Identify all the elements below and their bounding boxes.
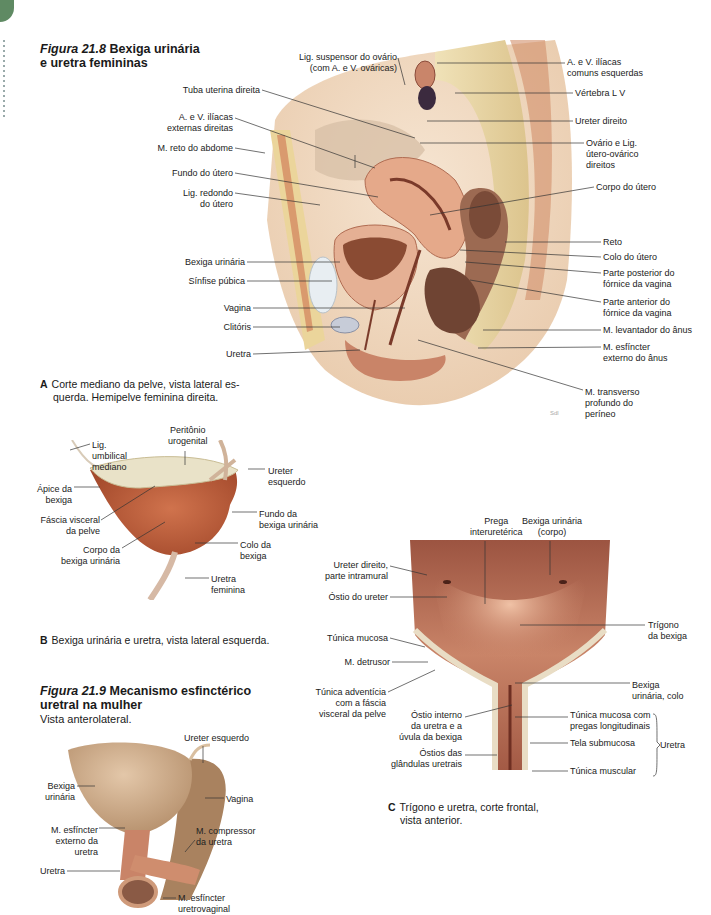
- label-lig-umbilical: Lig. umbilical mediano: [92, 440, 127, 473]
- label-text: M. esfíncter: [20, 825, 98, 836]
- figure-title-line1: Bexiga urinária: [109, 42, 199, 56]
- label-text: urogenital: [168, 436, 208, 447]
- label-text: fórnice da vagina: [603, 279, 675, 290]
- label-text: glândulas uretrais: [390, 759, 462, 770]
- label-text: da pelve: [20, 526, 100, 537]
- figure-21-9-subtitle: Vista anterolateral.: [40, 713, 132, 726]
- label-ostio-interno: Óstio interno da uretra e a úvula da bex…: [390, 710, 462, 743]
- label-text: Uretra: [211, 574, 245, 585]
- panel-a-caption: ACorte mediano da pelve, vista lateral e…: [40, 378, 240, 404]
- caption-text: vista anterior.: [400, 814, 462, 826]
- label-text: Túnica mucosa com: [570, 710, 651, 721]
- label-text: períneo: [585, 409, 640, 420]
- label-fig9-esfincter-externo: M. esfíncter externo da uretra: [20, 825, 98, 858]
- label-text: Fáscia visceral: [20, 515, 100, 526]
- figure-title-line1: Mecanismo esfinctérico: [109, 684, 251, 698]
- label-ureter-direito: Ureter direito: [575, 116, 627, 127]
- label-lig-redondo: Lig. redondo do útero: [130, 188, 233, 210]
- label-text: Óstio interno: [390, 710, 462, 721]
- label-fig9-bexiga: Bexiga urinária: [15, 781, 75, 803]
- figure-title-line2: uretral na mulher: [40, 698, 142, 712]
- label-text: úvula da bexiga: [390, 732, 462, 743]
- label-uretra-bracket: Uretra: [660, 740, 685, 751]
- label-text: M. compressor: [196, 826, 256, 837]
- label-colo-utero: Colo do útero: [603, 252, 657, 263]
- label-text: Ureter direito,: [300, 560, 388, 571]
- caption-text: Bexiga urinária e uretra, vista lateral …: [52, 634, 270, 646]
- chapter-tab: [0, 0, 14, 22]
- label-fornice-anterior: Parte anterior do fórnice da vagina: [603, 297, 672, 319]
- figure-number: Figura 21.9: [40, 684, 106, 698]
- label-text: bexiga urinária: [40, 556, 120, 567]
- figure-21-9-title: Figura 21.9 Mecanismo esfinctérico uretr…: [40, 684, 251, 712]
- label-text: visceral da pelve: [290, 709, 386, 720]
- panel-c-caption: CTrígono e uretra, corte frontal, vista …: [388, 801, 539, 827]
- label-esfincter-anus: M. esfíncter externo do ânus: [603, 342, 668, 364]
- label-apice-bexiga: Ápice da bexiga: [20, 484, 72, 506]
- label-text: Óstios das: [390, 748, 462, 759]
- label-text: da uretra e a: [390, 721, 462, 732]
- label-text: Bexiga: [632, 680, 684, 691]
- label-fig9-esfincter-uretrovaginal: M. esfíncter uretrovaginal: [178, 893, 230, 915]
- label-text: interuretérica: [470, 527, 523, 538]
- label-colo-bexiga: Colo da bexiga: [240, 540, 271, 562]
- label-fig9-compressor: M. compressor da uretra: [196, 826, 256, 848]
- label-tunica-mucosa-pregas: Túnica mucosa com pregas longitudinais: [570, 710, 651, 732]
- label-prega-interureterica: Prega interuretérica: [470, 516, 523, 538]
- figure-number: Figura 21.8: [40, 42, 106, 56]
- label-text: bexiga: [240, 551, 271, 562]
- label-transverso-perineo: M. transverso profundo do períneo: [585, 387, 640, 420]
- label-bexiga-colo: Bexiga urinária, colo: [632, 680, 684, 702]
- label-bexiga-urinaria: Bexiga urinária: [130, 257, 245, 268]
- label-uretra-feminina: Uretra feminina: [211, 574, 245, 596]
- label-iliacas-externas: A. e V. ilíacas externas direitas: [140, 112, 233, 134]
- label-iliacas-comuns: A. e V. ilíacas comuns esquerdas: [567, 57, 643, 79]
- label-tunica-muscular: Túnica muscular: [570, 766, 636, 777]
- panel-letter: A: [40, 378, 48, 390]
- label-text: Trígono: [648, 620, 687, 631]
- label-text: umbilical: [92, 451, 127, 462]
- label-sinfise-pubica: Sínfise púbica: [130, 276, 245, 287]
- label-text: bexiga: [20, 495, 72, 506]
- label-text: do útero: [130, 199, 233, 210]
- label-text: uretrovaginal: [178, 904, 230, 915]
- label-ureter-esquerdo: Ureter esquerdo: [268, 466, 306, 488]
- panel-letter: B: [40, 634, 48, 646]
- label-text: Prega: [470, 516, 523, 527]
- label-text: Parte anterior do: [603, 297, 672, 308]
- label-tunica-adventicia: Túnica adventícia com a fáscia visceral …: [290, 687, 386, 720]
- label-tunica-mucosa: Túnica mucosa: [300, 633, 388, 644]
- label-text: comuns esquerdas: [567, 68, 643, 79]
- label-reto: Reto: [603, 237, 622, 248]
- label-fundo-utero: Fundo do útero: [130, 168, 233, 179]
- label-levantador-anus: M. levantador do ânus: [603, 325, 692, 336]
- label-text: Lig. redondo: [130, 188, 233, 199]
- label-text: feminina: [211, 585, 245, 596]
- label-text: Peritônio: [168, 425, 208, 436]
- label-text: Parte posterior do: [603, 268, 675, 279]
- label-text: Lig. suspensor do ovário: [237, 52, 397, 63]
- pelvis-sagittal-illustration: Sdl: [255, 40, 585, 430]
- label-lig-suspensor: Lig. suspensor do ovário (com A. e V. ov…: [237, 52, 397, 74]
- label-text: bexiga urinária: [259, 520, 318, 531]
- label-text: M. esfíncter: [603, 342, 668, 353]
- label-text: Túnica adventícia: [290, 687, 386, 698]
- label-fig9-vagina: Vagina: [226, 794, 253, 805]
- label-ostios-glandulas: Óstios das glândulas uretrais: [390, 748, 462, 770]
- label-fascia-visceral: Fáscia visceral da pelve: [20, 515, 100, 537]
- panel-b-caption: BBexiga urinária e uretra, vista lateral…: [40, 634, 269, 647]
- label-corpo-utero: Corpo do útero: [596, 182, 656, 193]
- label-text: Corpo da: [40, 545, 120, 556]
- label-text: pregas longitudinais: [570, 721, 651, 732]
- label-text: direitos: [586, 160, 639, 171]
- label-trigono: Trígono da bexiga: [648, 620, 687, 642]
- label-text: externas direitas: [140, 123, 233, 134]
- label-text: A. e V. ilíacas: [140, 112, 233, 123]
- label-fornice-posterior: Parte posterior do fórnice da vagina: [603, 268, 675, 290]
- caption-text: Trígono e uretra, corte frontal,: [400, 801, 539, 813]
- label-vertebra-lv: Vértebra L V: [575, 88, 625, 99]
- label-text: profundo do: [585, 398, 640, 409]
- label-ovario: Ovário e Lig. útero-ovárico direitos: [586, 138, 639, 171]
- label-bexiga-corpo: Bexiga urinária (corpo): [522, 516, 582, 538]
- label-text: (com A. e V. ováricas): [237, 63, 397, 74]
